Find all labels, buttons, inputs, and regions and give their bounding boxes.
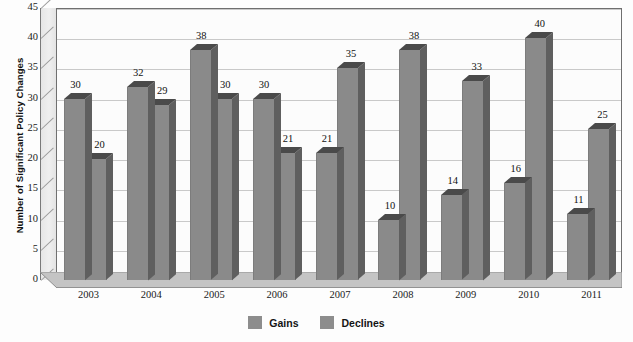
x-axis-tick-labels: 200320042005200620072008200920102011 <box>0 289 633 305</box>
x-axis-tick-label: 2005 <box>192 289 236 300</box>
axis-tick-mark <box>41 178 54 190</box>
x-axis-tick-label: 2006 <box>255 289 299 300</box>
x-axis-tick-label: 2011 <box>570 289 614 300</box>
chart-legend: GainsDeclines <box>0 316 633 329</box>
floor-polygon-icon <box>40 272 622 288</box>
gridline <box>57 251 621 252</box>
legend-swatch-icon <box>248 316 262 329</box>
chart-title-cropped <box>150 0 500 4</box>
x-axis-tick-label: 2004 <box>129 289 173 300</box>
legend-swatch-icon <box>320 316 334 329</box>
y-axis-tick-label: 25 <box>12 122 38 133</box>
gridline <box>57 9 621 10</box>
x-axis-tick-label: 2010 <box>507 289 551 300</box>
gridline <box>57 160 621 161</box>
y-axis-tick-label: 15 <box>12 182 38 193</box>
gridline <box>57 221 621 222</box>
y-axis-tick-label: 40 <box>12 31 38 42</box>
x-axis-tick-label: 2003 <box>66 289 110 300</box>
gridline <box>57 190 621 191</box>
chart-left-wall <box>40 8 57 280</box>
axis-tick-mark <box>41 0 54 9</box>
legend-label: Gains <box>269 317 298 329</box>
axis-tick-mark <box>41 208 54 220</box>
y-axis-tick-label: 5 <box>12 243 38 254</box>
y-axis-tick-label: 0 <box>12 273 38 284</box>
axis-tick-mark <box>41 27 54 39</box>
y-axis-tick-label: 35 <box>12 61 38 72</box>
gridline <box>57 39 621 40</box>
y-axis-tick-label: 45 <box>12 1 38 12</box>
x-axis-tick-label: 2007 <box>318 289 362 300</box>
axis-tick-mark <box>41 57 54 69</box>
axis-tick-mark <box>41 117 54 129</box>
axis-tick-mark <box>41 238 54 250</box>
gridline <box>57 100 621 101</box>
axis-tick-mark <box>41 148 54 160</box>
x-axis-tick-label: 2009 <box>444 289 488 300</box>
y-axis-tick-label: 30 <box>12 92 38 103</box>
x-axis-tick-label: 2008 <box>381 289 425 300</box>
y-axis-tick-label: 10 <box>12 213 38 224</box>
legend-item-declines[interactable]: Declines <box>320 316 384 329</box>
legend-item-gains[interactable]: Gains <box>248 316 298 329</box>
legend-label: Declines <box>341 317 384 329</box>
chart-floor <box>40 272 622 288</box>
y-axis-tick-label: 20 <box>12 152 38 163</box>
chart-container: Number of Significant Policy Changes 051… <box>0 0 633 342</box>
axis-tick-mark <box>41 87 54 99</box>
gridline <box>57 130 621 131</box>
gridline <box>57 69 621 70</box>
plot-area <box>56 8 622 280</box>
